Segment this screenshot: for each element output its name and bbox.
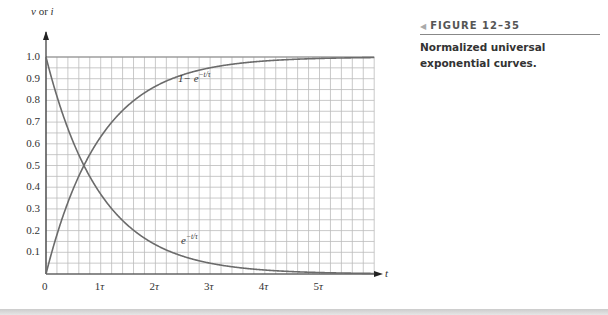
rising-curve-label: 1− e−t/τ	[178, 70, 210, 84]
x-tick-label: 5τ	[314, 280, 323, 292]
y-tick-label: 1.0	[4, 50, 40, 62]
x-tick-label: 4τ	[259, 280, 268, 292]
y-tick-label: 0.1	[4, 245, 40, 257]
y-tick-label: 0.5	[4, 159, 40, 171]
triangle-left-icon: ◀	[420, 22, 427, 31]
x-tick-label: 1τ	[95, 280, 104, 292]
y-tick-label: 0.3	[4, 202, 40, 214]
y-tick-label: 0.7	[4, 115, 40, 127]
x-tick-label: 0	[42, 280, 48, 292]
decaying-curve-label: e−t/τ	[181, 232, 198, 246]
y-tick-label: 0.2	[4, 224, 40, 236]
x-tick-label: 2τ	[149, 280, 158, 292]
figure-number: ◀FIGURE 12–35	[420, 20, 600, 35]
x-axis-label: t	[385, 267, 388, 279]
figure-caption: ◀FIGURE 12–35 Normalized universal expon…	[420, 20, 600, 71]
y-tick-label: 0.9	[4, 72, 40, 84]
x-tick-label: 3τ	[204, 280, 213, 292]
x-axis-arrow-icon	[374, 271, 383, 277]
y-axis-arrow-icon	[43, 31, 49, 40]
figure-caption-text: Normalized universal exponential curves.	[420, 39, 600, 71]
y-tick-label: 0.4	[4, 180, 40, 192]
y-tick-label: 0.6	[4, 137, 40, 149]
y-axis-label: v or i	[31, 5, 54, 17]
chart-grid	[46, 57, 374, 274]
page-bottom-rule	[0, 309, 608, 315]
y-tick-label: 0.8	[4, 93, 40, 105]
